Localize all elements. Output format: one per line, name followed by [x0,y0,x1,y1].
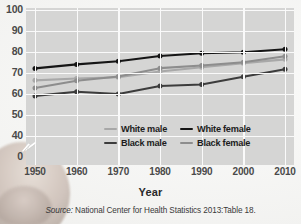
legend-item-black-female[interactable]: Black female [180,138,254,148]
x-axis-tick-2000: 2000 [233,166,254,177]
x-axis-title: Year [0,186,301,198]
x-axis-tick-labels: 1950196019701980199020002010 [0,166,301,184]
legend-label-black-female: Black female [197,138,250,148]
legend-label-black-male: Black male [121,138,167,148]
source-note: Source: National Center for Health Stati… [0,206,301,215]
x-axis-tick-1970: 1970 [108,166,129,177]
line-chart-figure: 1009080706050400 19501960197019801990200… [0,0,301,224]
y-axis-tick-40: 40 [0,129,23,141]
gridline-vertical [35,8,36,165]
legend-swatch-white-female [180,128,193,130]
legend-item-white-female[interactable]: White female [180,124,254,134]
legend-label-white-male: White male [121,124,167,134]
gridline-vertical [77,8,78,165]
legend-item-black-male[interactable]: Black male [104,138,180,148]
x-axis-tick-2010: 2010 [274,166,295,177]
x-axis-tick-1950: 1950 [24,166,45,177]
y-axis-tick-100: 100 [0,3,23,15]
gridline-vertical [285,8,286,165]
legend-label-white-female: White female [197,124,251,134]
y-axis-tick-labels: 1009080706050400 [0,0,26,172]
y-axis-tick-80: 80 [0,45,23,57]
source-text: National Center for Health Statistics 20… [75,206,256,215]
legend-swatch-black-female [180,142,193,144]
x-axis-tick-1990: 1990 [191,166,212,177]
chart-legend: White male White female Black male Black… [104,122,254,150]
source-prefix: Source: [45,206,73,215]
x-axis-tick-1960: 1960 [66,166,87,177]
x-axis-tick-1980: 1980 [149,166,170,177]
legend-swatch-black-male [104,142,117,144]
legend-swatch-white-male [104,128,117,130]
y-axis-tick-50: 50 [0,108,23,120]
y-axis-tick-0: 0 [0,150,23,162]
y-axis-tick-60: 60 [0,87,23,99]
y-axis-tick-90: 90 [0,24,23,36]
y-axis-tick-70: 70 [0,66,23,78]
legend-item-white-male[interactable]: White male [104,124,180,134]
